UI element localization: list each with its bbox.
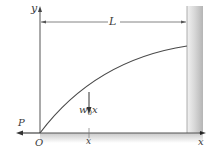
y-axis-label: y: [31, 3, 37, 14]
distributed-load-label: w0x: [79, 105, 98, 117]
axial-load-label: P: [18, 118, 25, 128]
elastic-curve: [40, 46, 187, 133]
x-axis-label: x: [198, 137, 204, 147]
beam-diagram: y L P O w0x x x: [0, 0, 219, 149]
y-axis: [38, 6, 42, 133]
length-label: L: [109, 16, 116, 27]
load-x: x: [92, 104, 98, 115]
dim-arrow-right-icon: [181, 21, 186, 24]
axial-force-P-arrow: [16, 131, 40, 136]
left-arrow-icon: [16, 131, 23, 136]
load-w: w: [79, 104, 88, 115]
dim-arrow-left-icon: [41, 21, 46, 24]
wall-base-point: [200, 132, 203, 135]
position-x-label: x: [86, 137, 91, 146]
origin-label: O: [35, 138, 43, 148]
ground-shade: [40, 133, 203, 143]
y-axis-arrow-icon: [38, 6, 42, 12]
fixed-wall-support: [187, 6, 203, 133]
